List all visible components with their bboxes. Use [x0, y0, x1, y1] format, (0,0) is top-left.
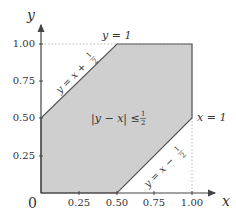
x-tick-label: 0.75	[143, 197, 165, 208]
label-y-equals-1: y = 1	[101, 29, 131, 42]
diagram-canvas: 0.25 0.50 0.75 1.00 0.25 0.50 0.75 1.00 …	[0, 0, 236, 220]
region-label-frac-den: 2	[141, 119, 145, 127]
x-tick-label: 1.00	[181, 197, 203, 208]
label-x-equals-1: x = 1	[197, 111, 226, 124]
x-tick-label: 0.25	[68, 197, 90, 208]
region-label-frac-num: 1	[141, 110, 145, 118]
y-tick-label: 0.75	[13, 75, 35, 86]
y-tick-label: 1.00	[13, 38, 35, 49]
region-label: |y − x| ≤ 1 2	[91, 110, 146, 127]
y-axis-label: y	[26, 7, 36, 23]
origin-label: 0	[28, 195, 37, 211]
lower-line-frac-den: 2	[179, 151, 188, 160]
region-label-lhs: |y − x| ≤	[91, 112, 140, 126]
x-axis-label: x	[222, 193, 230, 209]
x-tick-label: 0.50	[106, 197, 128, 208]
y-tick-label: 0.25	[13, 150, 35, 161]
y-tick-label: 0.50	[13, 112, 35, 123]
